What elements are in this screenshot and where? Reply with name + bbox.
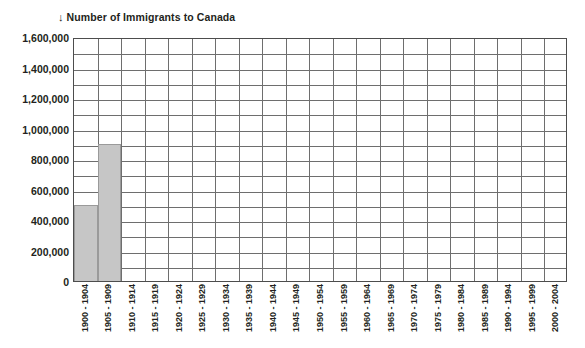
y-axis-tick-label: 200,000 <box>31 246 69 258</box>
x-axis-tick-text: 1960 - 1964 <box>363 284 372 332</box>
y-axis-tick-label: 1,400,000 <box>22 63 69 75</box>
plot-area <box>73 38 567 282</box>
x-axis-tick-text: 1970 - 1974 <box>410 284 419 332</box>
x-axis-tick-label: 1955 - 1959 <box>332 284 356 346</box>
x-axis-tick-text: 1950 - 1954 <box>315 284 324 332</box>
x-axis-tick-label: 1940 - 1944 <box>261 284 285 346</box>
x-axis-tick-text: 1930 - 1934 <box>221 284 230 332</box>
x-axis-tick-text: 1940 - 1944 <box>268 284 277 332</box>
x-axis-tick-text: 1955 - 1959 <box>339 284 348 332</box>
x-axis-tick-label: 1935 - 1939 <box>238 284 262 346</box>
x-axis-tick-label: 1925 - 1929 <box>191 284 215 346</box>
x-axis-tick-text: 1980 - 1984 <box>457 284 466 332</box>
x-axis-tick-label: 1915 - 1919 <box>144 284 168 346</box>
x-axis-tick-label: 2000 - 2004 <box>543 284 567 346</box>
y-axis-tick-label: 0 <box>63 276 69 288</box>
x-axis-tick-text: 1975 - 1979 <box>433 284 442 332</box>
x-axis-tick-label: 1985 - 1989 <box>473 284 497 346</box>
x-axis: 1900 - 19041905 - 19091910 - 19141915 - … <box>73 284 567 348</box>
x-axis-tick-label: 1965 - 1969 <box>379 284 403 346</box>
x-axis-tick-label: 1910 - 1914 <box>120 284 144 346</box>
x-axis-tick-label: 1900 - 1904 <box>73 284 97 346</box>
x-axis-tick-label: 1960 - 1964 <box>355 284 379 346</box>
x-axis-tick-text: 1905 - 1909 <box>104 284 113 332</box>
x-axis-tick-text: 1920 - 1924 <box>174 284 183 332</box>
x-axis-tick-text: 1935 - 1939 <box>245 284 254 332</box>
x-axis-tick-text: 2000 - 2004 <box>551 284 560 332</box>
x-axis-tick-label: 1950 - 1954 <box>308 284 332 346</box>
x-axis-tick-label: 1970 - 1974 <box>402 284 426 346</box>
x-axis-tick-text: 1945 - 1949 <box>292 284 301 332</box>
x-axis-tick-label: 1945 - 1949 <box>285 284 309 346</box>
y-axis-tick-label: 400,000 <box>31 215 69 227</box>
x-axis-tick-text: 1990 - 1994 <box>504 284 513 332</box>
y-axis-tick-label: 1,600,000 <box>22 32 69 44</box>
y-axis-tick-label: 600,000 <box>31 185 69 197</box>
x-axis-tick-label: 1920 - 1924 <box>167 284 191 346</box>
x-axis-tick-text: 1925 - 1929 <box>198 284 207 332</box>
y-axis-tick-label: 1,200,000 <box>22 93 69 105</box>
x-axis-tick-text: 1985 - 1989 <box>480 284 489 332</box>
x-axis-tick-text: 1910 - 1914 <box>127 284 136 332</box>
x-axis-tick-text: 1915 - 1919 <box>151 284 160 332</box>
x-axis-tick-text: 1965 - 1969 <box>386 284 395 332</box>
x-axis-tick-label: 1990 - 1994 <box>496 284 520 346</box>
y-axis-tick-label: 1,000,000 <box>22 124 69 136</box>
x-axis-tick-text: 1995 - 1999 <box>527 284 536 332</box>
x-axis-tick-text: 1900 - 1904 <box>80 284 89 332</box>
down-arrow-icon: ↓ <box>58 11 64 23</box>
x-axis-tick-label: 1905 - 1909 <box>97 284 121 346</box>
x-axis-tick-label: 1995 - 1999 <box>520 284 544 346</box>
bar-series <box>74 39 566 281</box>
bar <box>98 144 122 281</box>
page-title: ↓Number of Immigrants to Canada <box>58 11 235 23</box>
x-axis-tick-label: 1980 - 1984 <box>449 284 473 346</box>
y-axis-tick-label: 800,000 <box>31 154 69 166</box>
y-axis: 0200,000400,000600,000800,0001,000,0001,… <box>0 38 69 282</box>
x-axis-tick-label: 1975 - 1979 <box>426 284 450 346</box>
chart-title-text: Number of Immigrants to Canada <box>67 11 236 23</box>
bar <box>74 205 98 281</box>
x-axis-tick-label: 1930 - 1934 <box>214 284 238 346</box>
